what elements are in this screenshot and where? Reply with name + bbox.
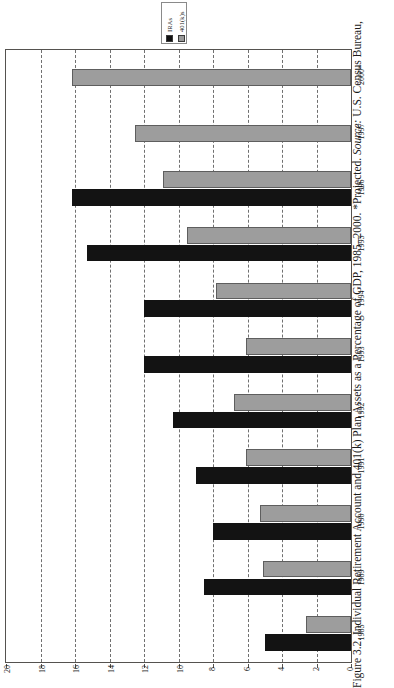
bar-iras[interactable] xyxy=(196,467,351,484)
value-tick-label: 4 xyxy=(278,667,286,671)
value-tick-label: 20 xyxy=(4,665,12,673)
bar-group xyxy=(6,328,351,384)
legend-swatch-401k xyxy=(178,35,185,42)
bar-401k[interactable] xyxy=(246,338,351,355)
legend-label-401k: 401(k)s xyxy=(178,11,185,32)
bar-401k[interactable] xyxy=(163,171,351,188)
bar-401k[interactable] xyxy=(135,125,351,142)
legend-entry-401k: 401(k)s xyxy=(176,3,186,42)
value-tick-label: 16 xyxy=(73,665,81,673)
bar-401k[interactable] xyxy=(260,505,351,522)
legend-swatch-iras xyxy=(166,35,173,42)
bar-iras[interactable] xyxy=(72,189,351,206)
value-tick-label: 18 xyxy=(39,665,47,673)
bar-401k[interactable] xyxy=(72,69,351,86)
bar-401k[interactable] xyxy=(216,283,351,300)
value-tick-label: 10 xyxy=(177,665,185,673)
bar-group xyxy=(6,217,351,273)
figure-caption: Figure 3.2. Individual Retirement Accoun… xyxy=(369,0,393,688)
bar-iras[interactable] xyxy=(144,356,351,373)
bar-group xyxy=(6,495,351,551)
value-tick-label: 2 xyxy=(313,667,321,671)
value-tick-label: 6 xyxy=(244,667,252,671)
bar-group xyxy=(6,273,351,329)
value-axis: 20181614121086420 xyxy=(5,664,352,688)
bar-401k[interactable] xyxy=(246,449,351,466)
bar-group xyxy=(6,551,351,607)
legend-label-iras: IRAs xyxy=(166,18,173,32)
bar-401k[interactable] xyxy=(187,227,351,244)
chart-plot-area xyxy=(6,50,351,662)
chart-legend: IRAs 401(k)s xyxy=(161,2,187,44)
value-tick-label: 8 xyxy=(209,667,217,671)
bar-group xyxy=(6,161,351,217)
chart-plot-frame xyxy=(5,49,352,663)
figure-caption-text: Figure 3.2. Individual Retirement Accoun… xyxy=(345,0,369,688)
bar-group xyxy=(6,439,351,495)
bar-group xyxy=(6,50,351,106)
bar-401k[interactable] xyxy=(234,394,351,411)
bar-group xyxy=(6,606,351,662)
bar-iras[interactable] xyxy=(204,579,351,596)
bar-iras[interactable] xyxy=(265,634,351,651)
bar-iras[interactable] xyxy=(87,245,351,262)
bar-group xyxy=(6,384,351,440)
bar-iras[interactable] xyxy=(173,412,351,429)
bar-401k[interactable] xyxy=(263,561,351,578)
bar-group xyxy=(6,106,351,162)
legend-entry-iras: IRAs xyxy=(164,3,174,42)
value-tick-label: 14 xyxy=(108,665,116,673)
value-tick-label: 12 xyxy=(142,665,150,673)
bar-iras[interactable] xyxy=(144,300,351,317)
bar-iras[interactable] xyxy=(213,523,351,540)
